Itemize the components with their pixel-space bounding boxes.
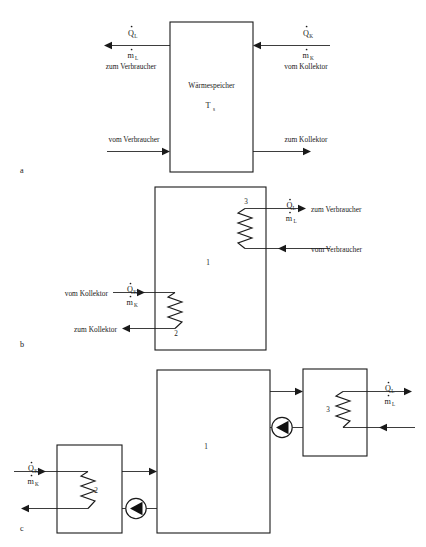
panel-a-storage-tank-box bbox=[170, 22, 253, 172]
panel-a-mass-subscript-load: L bbox=[135, 55, 138, 61]
arrowhead-right bbox=[298, 205, 306, 212]
panel-c-heat-subscript-collector: K bbox=[34, 468, 38, 474]
panel-c-tank-number: 1 bbox=[204, 443, 208, 451]
panel-c-mass-subscript-collector: K bbox=[35, 481, 39, 487]
panel-a-flow-top-right: Q K m K vom Kollektor bbox=[253, 26, 330, 71]
panel-b: 1 3 Q L m L zum Verbraucher vom Verbrauc… bbox=[20, 187, 362, 350]
panel-c-load-loop-piping bbox=[270, 388, 303, 438]
panel-b-label-to-consumer: zum Verbraucher bbox=[311, 205, 362, 214]
arrowhead-left bbox=[379, 424, 387, 431]
panel-b-heat-subscript-collector: K bbox=[133, 289, 137, 295]
panel-a-label-to-collector: zum Kollektor bbox=[285, 135, 328, 144]
arrowhead-left bbox=[278, 245, 286, 252]
panel-a-letter: a bbox=[20, 166, 24, 175]
panel-c-mass-symbol-load: m bbox=[384, 397, 391, 406]
arrowhead-left bbox=[21, 505, 29, 512]
arrowhead-right bbox=[38, 468, 46, 475]
panel-c-heat-subscript-load: L bbox=[391, 388, 394, 394]
panel-c-hx-right-box bbox=[303, 369, 367, 456]
arrowhead-right bbox=[162, 148, 170, 155]
arrowhead-left bbox=[122, 325, 130, 332]
panel-c-mass-subscript-load: L bbox=[392, 401, 395, 407]
panel-a-tank-title: Wärmespeicher bbox=[188, 81, 235, 90]
panel-b-mass-symbol-load: m bbox=[286, 214, 293, 223]
panel-b-label-to-collector: zum Kollektor bbox=[74, 325, 117, 334]
panel-a-flow-bottom-right: zum Kollektor bbox=[253, 135, 328, 155]
panel-b-coil-lower-number: 2 bbox=[174, 330, 178, 338]
panel-a-flow-top-left: Q L m L zum Verbraucher bbox=[104, 26, 170, 71]
panel-b-mass-subscript-load: L bbox=[293, 218, 296, 224]
panel-b-heat-symbol-collector: Q bbox=[127, 285, 133, 294]
panel-a-label-from-consumer: vom Verbraucher bbox=[109, 135, 160, 144]
panel-c-hx-right-number: 3 bbox=[326, 406, 330, 414]
panel-b-mass-symbol-collector: m bbox=[126, 298, 133, 307]
panel-b-heat-subscript-load: L bbox=[293, 205, 296, 211]
panel-a-heat-symbol-collector: Q bbox=[303, 29, 309, 38]
panel-a-flow-bottom-left: vom Verbraucher bbox=[107, 135, 170, 155]
figure-container: Wärmespeicher T s Q L m L zum Verbrauche… bbox=[0, 0, 426, 547]
panel-a: Wärmespeicher T s Q L m L zum Verbrauche… bbox=[20, 22, 330, 175]
panel-a-tank-temperature-subscript: s bbox=[213, 106, 215, 112]
panel-b-tank-number: 1 bbox=[206, 259, 210, 267]
panel-c-letter: c bbox=[20, 524, 24, 533]
panel-b-label-from-consumer: vom Verbraucher bbox=[311, 245, 362, 254]
panel-c-mass-symbol-collector: m bbox=[27, 477, 34, 486]
arrowhead-right bbox=[149, 468, 157, 475]
heat-storage-schematic: Wärmespeicher T s Q L m L zum Verbrauche… bbox=[0, 0, 426, 547]
panel-b-label-from-collector: vom Kollektor bbox=[65, 289, 109, 298]
arrowhead-right bbox=[303, 148, 311, 155]
panel-b-heat-symbol-load: Q bbox=[286, 201, 292, 210]
panel-b-letter: b bbox=[20, 340, 24, 349]
panel-a-heat-subscript-load: L bbox=[134, 33, 137, 39]
panel-a-heat-subscript-collector: K bbox=[309, 33, 313, 39]
panel-c-collector-loop-piping bbox=[122, 468, 157, 519]
panel-a-mass-subscript-collector: K bbox=[310, 55, 314, 61]
panel-c-heat-symbol-load: Q bbox=[385, 384, 391, 393]
panel-b-mass-subscript-collector: K bbox=[134, 302, 138, 308]
panel-a-mass-symbol-collector: m bbox=[302, 51, 309, 60]
panel-a-mass-symbol-load: m bbox=[127, 51, 134, 60]
panel-c-storage-tank-box bbox=[157, 370, 270, 533]
arrowhead-right bbox=[137, 289, 145, 296]
arrowhead-right bbox=[295, 388, 303, 395]
qdot-overdot bbox=[306, 26, 308, 28]
panel-c-heat-symbol-collector: Q bbox=[28, 464, 34, 473]
panel-a-tank-temperature: T bbox=[205, 101, 210, 110]
qdot-overdot bbox=[131, 26, 133, 28]
arrowhead-right bbox=[404, 388, 412, 395]
panel-a-heat-symbol-load: Q bbox=[128, 29, 134, 38]
panel-c: 1 2 3 Q K m K bbox=[14, 369, 415, 533]
arrowhead-left bbox=[104, 42, 112, 49]
panel-b-coil-upper-number: 3 bbox=[244, 198, 248, 206]
panel-a-label-to-consumer: zum Verbraucher bbox=[106, 62, 157, 71]
panel-b-storage-tank-box bbox=[155, 187, 266, 350]
arrowhead-left bbox=[253, 42, 261, 49]
panel-a-label-from-collector: vom Kollektor bbox=[284, 62, 328, 71]
